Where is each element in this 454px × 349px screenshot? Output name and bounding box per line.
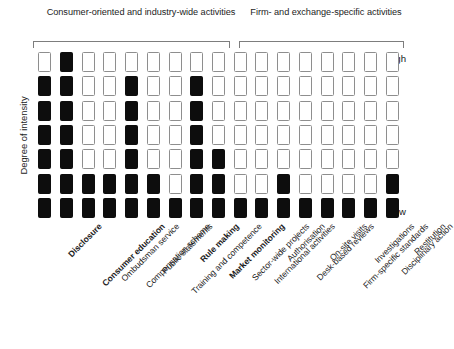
matrix-cell-wrapper	[34, 50, 56, 74]
matrix-cell	[169, 174, 182, 194]
matrix-cell	[103, 76, 116, 96]
matrix-cell-wrapper	[164, 196, 186, 220]
matrix-cell	[125, 76, 138, 96]
matrix-cell	[299, 101, 312, 121]
matrix-cell-wrapper	[229, 99, 251, 123]
matrix-cell-wrapper	[338, 196, 360, 220]
matrix-cell	[60, 52, 73, 72]
matrix-cell-wrapper	[273, 99, 295, 123]
matrix-cell	[234, 174, 247, 194]
matrix-cell	[299, 52, 312, 72]
matrix-cell	[60, 174, 73, 194]
matrix-cell-wrapper	[316, 123, 338, 147]
matrix-cell-wrapper	[164, 171, 186, 195]
matrix-cell	[277, 198, 290, 218]
matrix-cell-wrapper	[273, 123, 295, 147]
matrix-cell-wrapper	[208, 50, 230, 74]
matrix-cell	[342, 76, 355, 96]
matrix-cell	[234, 76, 247, 96]
matrix-cell-wrapper	[99, 123, 121, 147]
matrix-cell-wrapper	[121, 147, 143, 171]
matrix-cell	[169, 52, 182, 72]
matrix-cell-wrapper	[77, 74, 99, 98]
matrix-cell-wrapper	[251, 123, 273, 147]
matrix-cell	[190, 149, 203, 169]
matrix-cell-wrapper	[186, 123, 208, 147]
matrix-cell	[103, 149, 116, 169]
matrix-cell	[277, 101, 290, 121]
matrix-cell-wrapper	[381, 50, 403, 74]
matrix-cell-wrapper	[186, 99, 208, 123]
matrix-cell	[38, 149, 51, 169]
matrix-cell-wrapper	[99, 50, 121, 74]
matrix-cell	[190, 198, 203, 218]
matrix-cell	[125, 198, 138, 218]
matrix-cell-wrapper	[186, 50, 208, 74]
matrix-cell	[60, 125, 73, 145]
matrix-cell-wrapper	[77, 50, 99, 74]
x-axis-labels: DisclosureConsumer educationOmbudsman se…	[34, 222, 403, 349]
matrix-cell-wrapper	[273, 171, 295, 195]
matrix-cell-wrapper	[381, 196, 403, 220]
matrix-cell-wrapper	[56, 99, 78, 123]
matrix-cell-wrapper	[338, 171, 360, 195]
matrix-cell	[277, 125, 290, 145]
matrix-cell	[212, 101, 225, 121]
matrix-cell	[38, 101, 51, 121]
matrix-cell-wrapper	[316, 196, 338, 220]
matrix-cell	[125, 52, 138, 72]
matrix-cell-wrapper	[77, 123, 99, 147]
matrix-cell-wrapper	[338, 50, 360, 74]
matrix-cell-wrapper	[99, 99, 121, 123]
matrix-cell-wrapper	[34, 147, 56, 171]
matrix-cell-wrapper	[56, 196, 78, 220]
matrix-cell-wrapper	[208, 171, 230, 195]
matrix-cell	[38, 52, 51, 72]
matrix-cell-wrapper	[251, 171, 273, 195]
matrix-cell-wrapper	[273, 74, 295, 98]
matrix-cell-wrapper	[143, 123, 165, 147]
matrix-cell	[125, 174, 138, 194]
matrix-cell	[147, 52, 160, 72]
matrix-cell	[82, 76, 95, 96]
matrix-cell	[386, 174, 399, 194]
matrix-cell	[255, 52, 268, 72]
matrix-cell-wrapper	[294, 50, 316, 74]
matrix-cell	[190, 52, 203, 72]
matrix-cell-wrapper	[34, 123, 56, 147]
matrix-cell-wrapper	[251, 196, 273, 220]
matrix-cell	[125, 125, 138, 145]
matrix-cell	[386, 149, 399, 169]
matrix-cell-wrapper	[338, 147, 360, 171]
matrix-cell	[386, 125, 399, 145]
matrix-cell-wrapper	[121, 196, 143, 220]
matrix-cell	[125, 101, 138, 121]
matrix-cell-wrapper	[121, 171, 143, 195]
matrix-cell	[386, 198, 399, 218]
matrix-cell-wrapper	[208, 99, 230, 123]
matrix-cell	[321, 174, 334, 194]
matrix-cell-wrapper	[56, 123, 78, 147]
matrix-cell-wrapper	[229, 123, 251, 147]
matrix-cell-wrapper	[56, 147, 78, 171]
matrix-cell-wrapper	[273, 50, 295, 74]
matrix-cell-wrapper	[77, 99, 99, 123]
matrix-cell-wrapper	[34, 171, 56, 195]
matrix-cell-wrapper	[121, 50, 143, 74]
matrix-cell-wrapper	[251, 74, 273, 98]
matrix-cell-wrapper	[338, 99, 360, 123]
matrix-cell-wrapper	[56, 50, 78, 74]
matrix-cell	[103, 125, 116, 145]
matrix-cell-wrapper	[294, 196, 316, 220]
matrix-cell-wrapper	[316, 147, 338, 171]
matrix-cell	[255, 174, 268, 194]
matrix-cell-wrapper	[34, 196, 56, 220]
matrix-cell	[321, 76, 334, 96]
group-heading-consumer-oriented: Consumer-oriented and industry-wide acti…	[36, 7, 246, 19]
matrix-cell	[190, 174, 203, 194]
matrix-cell	[147, 149, 160, 169]
matrix-cell-wrapper	[143, 50, 165, 74]
matrix-cell	[125, 149, 138, 169]
matrix-cell	[169, 125, 182, 145]
